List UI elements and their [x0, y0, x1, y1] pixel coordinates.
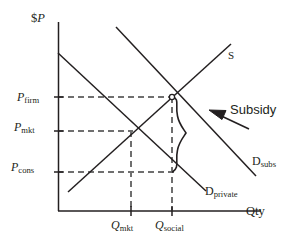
- axis-tick-marks: [54, 97, 172, 216]
- d-subs-symbol: D: [252, 154, 261, 168]
- y-axis-title: $P: [31, 12, 45, 25]
- d-subs-subscript: subs: [261, 159, 276, 169]
- q-social-symbol: Q: [155, 218, 164, 232]
- annotation-label-subsidy: Subsidy: [230, 103, 276, 116]
- p-firm-subscript: firm: [24, 95, 39, 105]
- price-label-p-cons: Pcons: [11, 161, 34, 175]
- dashed-guide-lines: [58, 97, 174, 210]
- quantity-label-q-mkt: Qmkt: [111, 219, 133, 233]
- curve-label-supply: S: [228, 50, 234, 61]
- d-private-symbol: D: [205, 184, 214, 198]
- d-private-subscript: private: [214, 189, 238, 199]
- price-label-p-firm: Pfirm: [17, 91, 39, 105]
- curve-label-demand-subsidized: Dsubs: [252, 155, 276, 169]
- demand-private-curve: [58, 53, 206, 191]
- q-mkt-subscript: mkt: [120, 223, 133, 233]
- curve-label-demand-private: Dprivate: [205, 185, 238, 199]
- p-mkt-subscript: mkt: [21, 125, 34, 135]
- x-axis-title: Qty: [246, 205, 265, 218]
- supply-curve: [68, 44, 231, 192]
- q-social-subscript: social: [164, 223, 184, 233]
- p-cons-subscript: cons: [18, 165, 34, 175]
- quantity-label-q-social: Qsocial: [155, 219, 184, 233]
- price-label-p-mkt: Pmkt: [14, 121, 35, 135]
- q-mkt-symbol: Q: [111, 218, 120, 232]
- y-axis-symbol: P: [37, 11, 45, 25]
- subsidy-arrow-head: [209, 110, 226, 120]
- supply-demand-subsidy-figure: $P Qty Pfirm Pmkt Pcons Qmkt Qsocial S D…: [0, 0, 298, 244]
- social-equilibrium-point: [169, 94, 174, 99]
